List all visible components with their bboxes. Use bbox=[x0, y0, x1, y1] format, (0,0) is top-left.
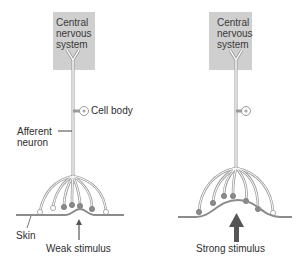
receptor-active bbox=[221, 193, 226, 198]
cns-label-weak: Central nervous system bbox=[56, 17, 92, 50]
cns-line: system bbox=[217, 39, 253, 50]
cell-body-label: Cell body bbox=[91, 105, 133, 116]
receptor-active bbox=[69, 202, 74, 207]
receptor-active bbox=[230, 193, 235, 198]
receptor-inactive bbox=[50, 205, 55, 210]
receptor-active bbox=[77, 203, 82, 208]
receptor-active bbox=[89, 206, 94, 211]
receptor-active bbox=[196, 209, 201, 214]
strong-stimulus-label: Strong stimulus bbox=[196, 243, 265, 254]
cns-line: Central bbox=[217, 17, 253, 28]
skin-label: Skin bbox=[16, 230, 35, 241]
weak-stimulus-label: Weak stimulus bbox=[46, 243, 111, 254]
receptor-active bbox=[61, 204, 66, 209]
receptor-inactive bbox=[103, 209, 108, 214]
cns-line: system bbox=[56, 39, 92, 50]
neuron-strong bbox=[196, 50, 275, 216]
cns-line: Central bbox=[56, 17, 92, 28]
cns-line: nervous bbox=[56, 28, 92, 39]
receptor-active bbox=[210, 200, 215, 205]
cns-label-strong: Central nervous system bbox=[217, 17, 253, 50]
afferent-neuron-label-1: Afferent bbox=[17, 126, 52, 137]
receptor-inactive bbox=[37, 209, 42, 214]
cns-line: nervous bbox=[217, 28, 253, 39]
afferent-neuron-label-2: neuron bbox=[17, 137, 48, 148]
